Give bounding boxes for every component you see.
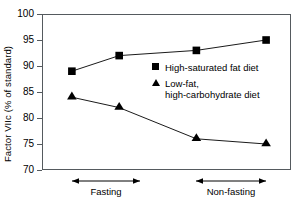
data-point-triangle-3 <box>261 138 271 146</box>
data-point-triangle-1 <box>114 102 124 110</box>
triangle-marker-icon <box>152 78 165 86</box>
data-point-square-1 <box>115 52 123 60</box>
legend-label-low-fat-high-carbohydrate-diet: Low-fat, high-carbohydrate diet <box>165 78 260 101</box>
data-point-square-0 <box>68 67 76 75</box>
non-fasting-annotation-label: Non-fasting <box>189 186 273 197</box>
non-fasting-arrow <box>196 178 266 184</box>
fasting-annotation-label: Fasting <box>66 186 146 197</box>
chart-legend: High-saturated fat diet Low-fat, high-ca… <box>152 62 260 105</box>
data-point-triangle-0 <box>67 92 77 100</box>
legend-item-low-fat-high-carbohydrate-diet: Low-fat, high-carbohydrate diet <box>152 78 260 101</box>
legend-label-high-saturated-fat-diet: High-saturated fat diet <box>165 62 258 74</box>
data-point-square-3 <box>262 36 270 44</box>
legend-item-high-saturated-fat-diet: High-saturated fat diet <box>152 62 260 74</box>
chart-figure: Factor VIIc (% of standard) 100 95 90 85… <box>0 0 304 208</box>
square-marker-icon <box>152 62 165 70</box>
fasting-arrow <box>72 178 140 184</box>
data-point-square-2 <box>193 47 201 55</box>
